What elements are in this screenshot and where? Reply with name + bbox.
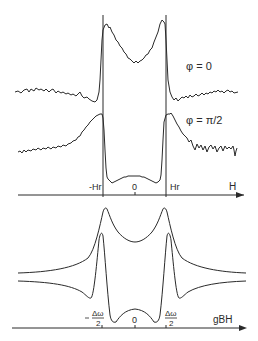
bottom-panel bbox=[12, 208, 246, 328]
spectrum-figure: φ = 0 φ = π/2 -Hr 0 Hr H Δω 2 0 Δω 2 gBH bbox=[0, 0, 258, 341]
tick-label-plus-dw-den: 2 bbox=[169, 319, 174, 328]
tick-label-minus-hr: -Hr bbox=[89, 182, 102, 192]
label-phi-pi-2: φ = π/2 bbox=[186, 114, 222, 126]
theory-curve-peaks bbox=[18, 208, 246, 273]
tick-label-plus-hr: Hr bbox=[170, 182, 180, 192]
tick-label-zero-top: 0 bbox=[132, 182, 137, 192]
h-axis-arrow-icon bbox=[236, 192, 244, 198]
tick-label-minus-dw-den: 2 bbox=[96, 319, 101, 328]
axis-label-gbh: gBH bbox=[213, 314, 232, 325]
top-panel bbox=[15, 15, 244, 197]
tick-label-minus-dw-num: Δω bbox=[92, 309, 104, 318]
label-phi-0: φ = 0 bbox=[186, 60, 212, 72]
tick-label-zero-bottom: 0 bbox=[132, 315, 137, 325]
theory-curve-dispersive bbox=[18, 233, 246, 322]
axis-label-h: H bbox=[229, 181, 236, 192]
gbh-axis-arrow-icon bbox=[239, 325, 247, 331]
tick-label-plus-dw-num: Δω bbox=[165, 309, 177, 318]
